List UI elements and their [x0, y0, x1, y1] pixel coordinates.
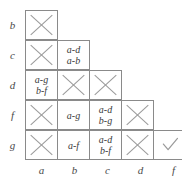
matrix-cell-g-c[interactable]: a-db-f [89, 130, 122, 160]
column-label-d: d [124, 161, 157, 179]
matrix-cell-g-f[interactable] [153, 130, 182, 160]
row-label-d: d [0, 70, 25, 100]
row-label-column: bcdfg [0, 10, 25, 160]
matrix-row-b [25, 10, 182, 40]
cell-text-line: b-g [99, 115, 112, 126]
column-label-f: f [157, 161, 182, 179]
matrix-cell-c-b[interactable]: a-da-b [57, 40, 90, 70]
column-label-c: c [91, 161, 124, 179]
x-mark-icon [122, 131, 153, 159]
matrix-cell-f-d[interactable] [121, 100, 154, 130]
cell-text-line: b-f [100, 145, 111, 156]
column-label-a: a [25, 161, 58, 179]
cell-text-line: a-d [99, 134, 112, 145]
matrix-row-g: a-fa-db-f [25, 130, 182, 160]
x-mark-icon [26, 131, 57, 159]
cell-text-line: a-d [99, 104, 112, 115]
matrix-cell-g-d[interactable] [121, 130, 154, 160]
matrix-cell-f-b[interactable]: a-g [57, 100, 90, 130]
column-label-row: abcdf [25, 161, 182, 179]
x-mark-icon [58, 71, 89, 99]
matrix-row-d: a-gb-f [25, 70, 182, 100]
x-mark-icon [26, 11, 57, 39]
x-mark-icon [26, 101, 57, 129]
check-mark-icon [154, 131, 182, 159]
x-mark-icon [90, 71, 121, 99]
matrix-grid: a-da-ba-gb-fa-ga-db-ga-fa-db-f [25, 10, 182, 160]
matrix-cell-d-a[interactable]: a-gb-f [25, 70, 58, 100]
x-mark-icon [122, 101, 153, 129]
row-label-c: c [0, 40, 25, 70]
comparison-matrix-figure: bcdfg a-da-ba-gb-fa-ga-db-ga-fa-db-f abc… [0, 0, 182, 185]
cell-text-line: b-f [36, 85, 47, 96]
matrix-cell-g-a[interactable] [25, 130, 58, 160]
cell-text-line: a-g [67, 110, 80, 121]
matrix-cell-f-a[interactable] [25, 100, 58, 130]
x-mark-icon [26, 41, 57, 69]
matrix-row-c: a-da-b [25, 40, 182, 70]
matrix-cell-c-a[interactable] [25, 40, 58, 70]
matrix-cell-g-b[interactable]: a-f [57, 130, 90, 160]
row-label-g: g [0, 130, 25, 160]
cell-text-line: a-f [68, 140, 79, 151]
matrix-cell-d-c[interactable] [89, 70, 122, 100]
row-label-f: f [0, 100, 25, 130]
cell-text-line: a-b [67, 55, 80, 66]
matrix-cell-f-c[interactable]: a-db-g [89, 100, 122, 130]
cell-text-line: a-g [35, 74, 48, 85]
cell-text-line: a-d [67, 44, 80, 55]
matrix-cell-b-a[interactable] [25, 10, 58, 40]
row-label-b: b [0, 10, 25, 40]
column-label-b: b [58, 161, 91, 179]
matrix-row-f: a-ga-db-g [25, 100, 182, 130]
matrix-cell-d-b[interactable] [57, 70, 90, 100]
